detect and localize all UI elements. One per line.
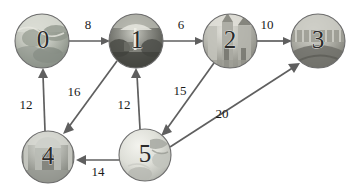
graph-canvas: 8 6 10 12 16 12 15 14 20 xyxy=(0,0,352,194)
edge-weight-1-2: 6 xyxy=(178,17,185,32)
edge-2-to-3 xyxy=(257,37,292,45)
edge-weight-5-4: 14 xyxy=(92,164,106,179)
nodes-group: 0 1 xyxy=(15,13,345,183)
node-0-label: 0 xyxy=(37,26,50,53)
node-2-label: 2 xyxy=(224,26,237,53)
node-2[interactable]: 2 xyxy=(203,13,257,68)
node-0[interactable]: 0 xyxy=(15,14,69,70)
edge-weight-5-3: 20 xyxy=(216,106,229,121)
node-1-label: 1 xyxy=(131,26,144,53)
edge-weight-2-5: 15 xyxy=(174,83,187,98)
edge-weight-0-1: 8 xyxy=(85,17,92,32)
node-5-label: 5 xyxy=(139,140,152,167)
graph-diagram: 8 6 10 12 16 12 15 14 20 xyxy=(0,0,352,194)
edge-4-to-0 xyxy=(38,68,48,131)
edge-5-to-1 xyxy=(131,68,141,129)
node-3[interactable]: 3 xyxy=(291,14,345,70)
edge-weight-5-1: 12 xyxy=(118,97,131,112)
edge-1-to-2 xyxy=(163,37,204,45)
node-4[interactable]: 4 xyxy=(22,131,74,183)
edge-2-to-5 xyxy=(161,63,214,136)
edge-weight-4-0: 12 xyxy=(20,97,33,112)
node-5[interactable]: 5 xyxy=(119,129,172,181)
node-1[interactable]: 1 xyxy=(108,14,163,68)
edge-weight-1-4: 16 xyxy=(68,84,82,99)
edge-weight-2-3: 10 xyxy=(261,17,274,32)
edge-0-to-1 xyxy=(69,37,110,45)
node-3-label: 3 xyxy=(312,26,325,53)
edge-5-to-3 xyxy=(170,63,300,147)
node-4-label: 4 xyxy=(42,142,55,169)
